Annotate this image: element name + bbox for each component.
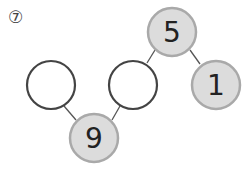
number-bond-diagram: 5 1 9	[0, 0, 243, 175]
connector-top-right	[190, 50, 200, 64]
node-middle-empty[interactable]	[109, 61, 157, 109]
connector-middle-bottom	[112, 106, 120, 120]
connector-top-middle	[147, 50, 155, 63]
node-bottom: 9	[70, 114, 118, 162]
node-top-value: 5	[163, 16, 181, 49]
node-bottom-value: 9	[85, 122, 103, 155]
node-right-value: 1	[207, 69, 225, 102]
connector-left-bottom	[64, 106, 76, 120]
node-left-empty[interactable]	[27, 61, 75, 109]
node-top: 5	[148, 8, 196, 56]
node-right: 1	[192, 61, 240, 109]
